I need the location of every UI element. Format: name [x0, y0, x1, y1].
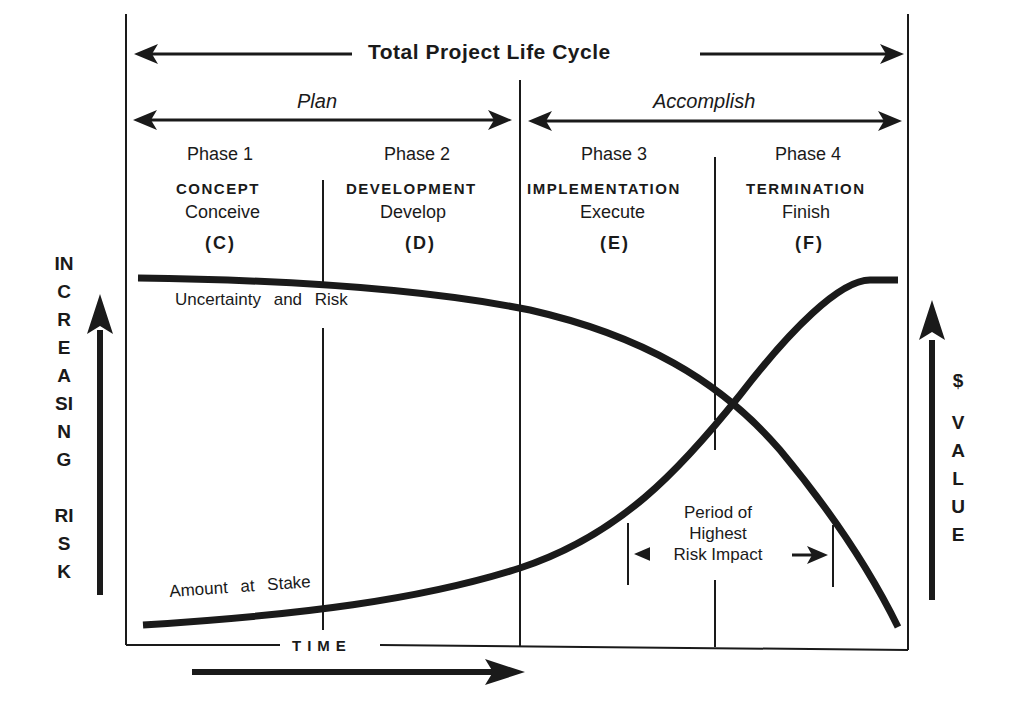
stage-accomplish-label: Accomplish: [653, 90, 755, 113]
phase-1-name: CONCEPT: [176, 180, 260, 197]
phase-2-letter: (D): [405, 233, 436, 254]
phase-3-letter: (E): [600, 233, 630, 254]
value-word: VALUE: [948, 409, 968, 549]
period-line-1: Period of: [650, 502, 786, 523]
accomplish-arrow: [528, 111, 902, 131]
value-axis-arrow: [919, 300, 945, 600]
phase-2-number: Phase 2: [384, 144, 450, 165]
risk-axis-arrow: [87, 294, 113, 595]
period-line-3: Risk Impact: [650, 544, 786, 565]
period-of-highest-risk-label: Period of Highest Risk Impact: [650, 502, 786, 565]
increasing-risk-label: INCREASING RISK: [54, 250, 74, 586]
phase-1-number: Phase 1: [187, 144, 253, 165]
phase-4-letter: (F): [795, 233, 824, 254]
life-cycle-diagram: [0, 0, 1010, 713]
time-arrow: [192, 659, 525, 685]
risk-curve-label: Uncertainty and Risk: [175, 290, 348, 310]
phase-4-name: TERMINATION: [746, 180, 866, 197]
phase-4-number: Phase 4: [775, 144, 841, 165]
phase-2-name: DEVELOPMENT: [346, 180, 477, 197]
risk-word: RISK: [54, 502, 74, 586]
phase-3-verb: Execute: [580, 202, 645, 223]
stage-plan-label: Plan: [297, 90, 337, 113]
phase-4-verb: Finish: [782, 202, 830, 223]
increasing-word: INCREASING: [54, 250, 74, 474]
phase-1-letter: (C): [205, 233, 236, 254]
diagram-title: Total Project Life Cycle: [360, 40, 619, 64]
phase-1-verb: Conceive: [185, 202, 260, 223]
period-line-2: Highest: [650, 523, 786, 544]
phase-3-number: Phase 3: [581, 144, 647, 165]
value-label: $ VALUE: [948, 367, 968, 549]
plan-arrow: [133, 110, 512, 130]
phase-3-name: IMPLEMENTATION: [527, 180, 681, 197]
risk-curve: [138, 278, 898, 627]
phase-2-verb: Develop: [380, 202, 446, 223]
time-axis-label: TIME: [286, 637, 358, 654]
dollar-sign: $: [948, 367, 968, 395]
